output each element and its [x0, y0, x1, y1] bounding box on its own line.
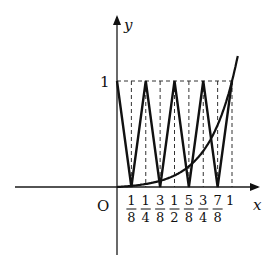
- tick-denominator: 8: [213, 210, 221, 225]
- tick-denominator: 2: [170, 210, 178, 225]
- tick-denominator: 4: [142, 210, 150, 225]
- x-tick-label-1: 1: [226, 193, 234, 208]
- tick-numerator: 1: [142, 193, 150, 208]
- tick-numerator: 3: [156, 193, 164, 208]
- tick-denominator: 8: [185, 210, 193, 225]
- origin-label: O: [97, 197, 109, 215]
- y-tick-label-1: 1: [100, 73, 110, 91]
- x-tick-labels: 18143812583478: [126, 193, 222, 225]
- y-axis-label: y: [123, 16, 133, 34]
- tick-denominator: 8: [156, 210, 164, 225]
- diagram-canvas: y x O 1 1 18143812583478: [0, 0, 273, 266]
- tick-denominator: 4: [199, 210, 207, 225]
- x-axis-label: x: [253, 196, 262, 214]
- tick-numerator: 1: [127, 193, 135, 208]
- tick-numerator: 3: [199, 193, 207, 208]
- tick-numerator: 1: [170, 193, 178, 208]
- tick-numerator: 7: [213, 193, 221, 208]
- tick-denominator: 8: [127, 210, 135, 225]
- tick-numerator: 5: [185, 193, 193, 208]
